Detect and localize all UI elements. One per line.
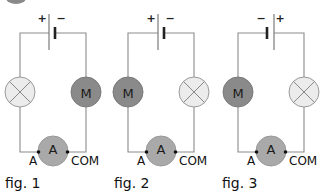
terminal-dot [37,150,41,154]
terminal-com-label: COM [179,154,207,168]
ammeter-icon: A [37,136,70,166]
wire [238,33,267,77]
wire [68,107,86,152]
ammeter-icon: A [255,136,288,166]
polarity-right: + [275,12,284,25]
polarity-left: + [146,12,155,25]
terminal-a-label: A [247,154,256,168]
wire [286,107,304,152]
wire [20,107,38,152]
figure-1: + − M A A COM fig. 1 [5,12,101,191]
lamp-icon [179,77,209,107]
polarity-left: + [37,12,46,25]
ammeter-icon: A [145,136,178,166]
wire [20,33,49,77]
polarity-right: − [165,12,174,25]
motor-label: M [122,86,133,101]
circuit-diagram: + − M A A COM fig. 1 [0,0,327,193]
ammeter-label: A [267,142,276,157]
motor-label: M [80,86,91,101]
lamp-icon [5,77,35,107]
polarity-left: − [256,12,265,25]
terminal-a-label: A [137,154,146,168]
terminal-dot [66,150,70,154]
wire [238,107,256,152]
wire [128,107,146,152]
figure-label: fig. 3 [222,175,258,191]
polarity-right: − [56,12,65,25]
motor-icon: M [71,77,101,107]
figure-label: fig. 2 [114,175,150,191]
battery [267,14,274,50]
wire [128,33,158,77]
motor-icon: M [113,77,143,107]
ammeter-label: A [157,142,166,157]
figure-label: fig. 1 [5,175,41,191]
wire [274,33,304,77]
wire [176,107,194,152]
figure-3: − + M A A COM fig. 3 [222,12,319,191]
terminal-dot [255,150,259,154]
battery [158,14,164,50]
terminal-dot [174,150,178,154]
motor-icon: M [223,77,253,107]
wire [55,33,86,77]
wire [164,33,194,77]
terminal-dot [284,150,288,154]
battery [49,14,55,50]
figure-2: + − M A A COM fig. 2 [113,12,209,191]
terminal-com-label: COM [71,154,99,168]
terminal-com-label: COM [289,154,317,168]
clipped-header-badge [6,0,26,4]
terminal-dot [145,150,149,154]
terminal-a-label: A [29,154,38,168]
lamp-icon [289,77,319,107]
motor-label: M [232,86,243,101]
ammeter-label: A [49,142,58,157]
